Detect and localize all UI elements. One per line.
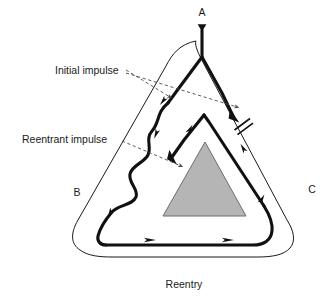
flow-arrow-bottom-2 xyxy=(222,238,234,243)
node-label-b: B xyxy=(73,186,80,198)
left-branch-limb xyxy=(168,57,202,103)
right-branch-limb xyxy=(202,57,239,123)
flow-arrow-bottom-1 xyxy=(144,238,156,243)
reentry-diagram: A B C Initial impulse Reentrant impulse … xyxy=(0,0,335,301)
leader-reentrant-impulse xyxy=(122,141,181,166)
annotation-initial-impulse: Initial impulse xyxy=(55,64,119,76)
figure-caption: Reentry xyxy=(166,278,204,290)
reentry-figure: A B C Initial impulse Reentrant impulse … xyxy=(0,0,335,301)
leader-initial-impulse-left xyxy=(126,70,170,97)
node-label-a: A xyxy=(198,6,205,18)
down-arrowhead-icon xyxy=(198,24,207,31)
node-label-c: C xyxy=(308,183,316,195)
annotation-reentrant-impulse: Reentrant impulse xyxy=(22,133,107,145)
